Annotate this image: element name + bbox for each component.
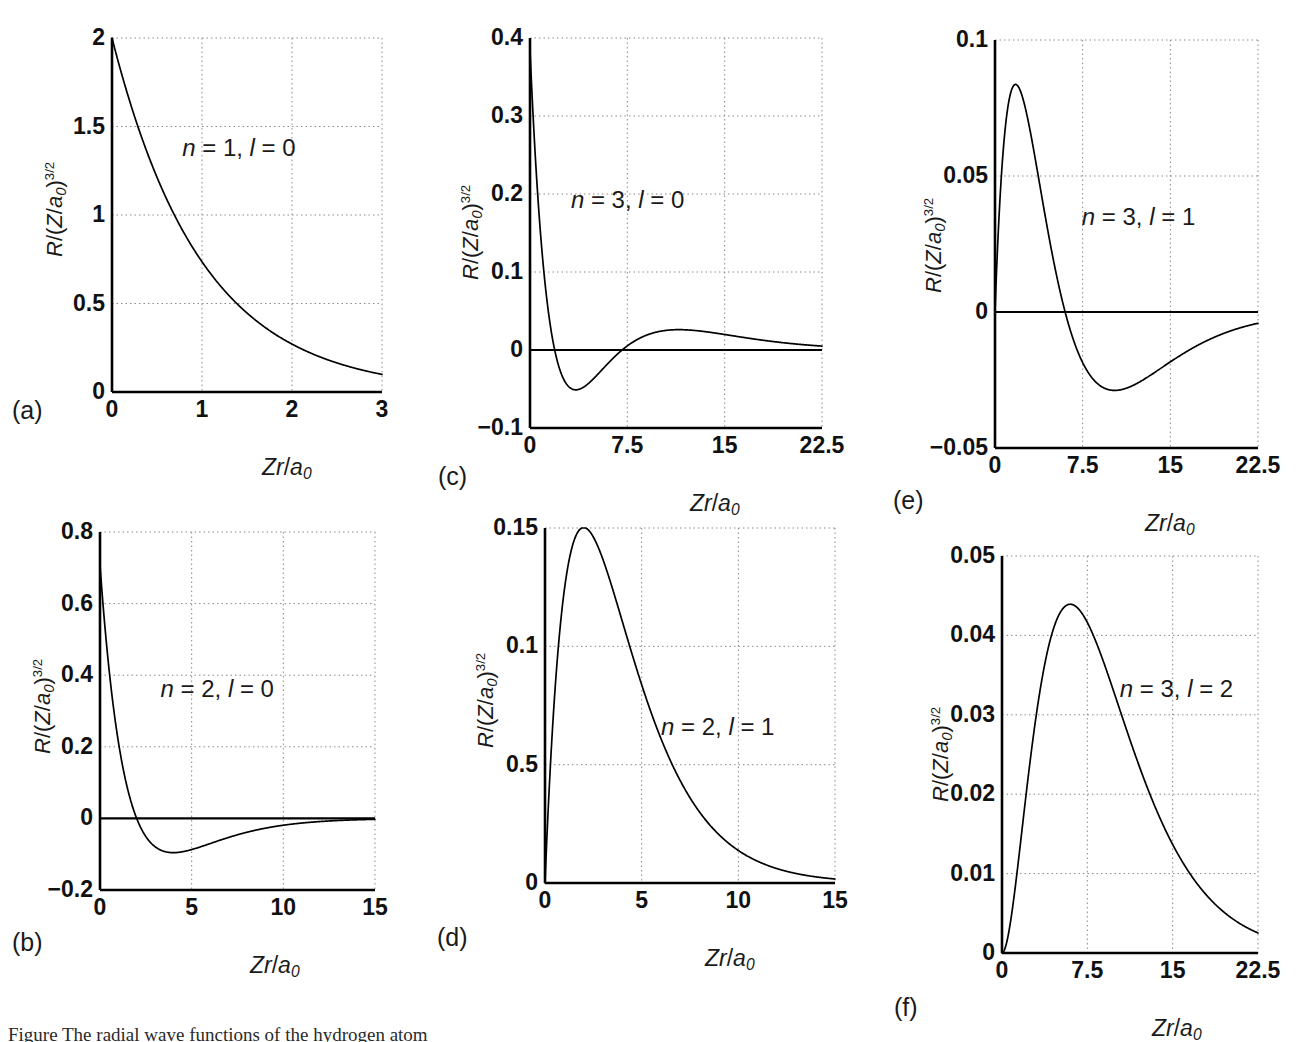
x-tick-label: 10 — [243, 896, 323, 919]
y-tick-label: 2 — [92, 26, 105, 49]
y-tick-label: 0.4 — [491, 26, 523, 49]
x-tick-label: 22.5 — [782, 434, 862, 457]
curve-annotation-f: n = 3, l = 2 — [1120, 675, 1233, 703]
curve-annotation-e: n = 3, l = 1 — [1082, 203, 1195, 231]
panel-label-d: (d) — [437, 923, 468, 952]
y-tick-label: 0 — [80, 806, 93, 829]
gridlines-e — [995, 40, 1258, 448]
x-tick-label: 0 — [72, 398, 152, 421]
y-tick-label: 0.1 — [506, 634, 538, 657]
y-tick-label: 0.5 — [506, 753, 538, 776]
y-tick-label: 0 — [510, 338, 523, 361]
y-tick-label: 0.02 — [950, 782, 995, 805]
x-tick-label: 0 — [60, 896, 140, 919]
y-tick-label: 0 — [975, 300, 988, 323]
x-tick-label: 15 — [1133, 959, 1213, 982]
y-tick-label: 0.5 — [73, 292, 105, 315]
figure-caption: Figure The radial wave functions of the … — [8, 1024, 1298, 1042]
x-tick-label: 22.5 — [1218, 454, 1298, 477]
y-tick-label: 0.03 — [950, 703, 995, 726]
panel-label-e: (e) — [893, 486, 924, 515]
panel-b: −0.200.20.40.60.8051015R/(Z/a0)3/2Zr/a0n… — [0, 500, 430, 970]
x-tick-label: 15 — [795, 889, 875, 912]
y-tick-label: 1.5 — [73, 115, 105, 138]
y-tick-label: 0.05 — [943, 164, 988, 187]
y-tick-label: 0.04 — [950, 623, 995, 646]
x-tick-label: 15 — [1130, 454, 1210, 477]
panel-c: −0.100.10.20.30.407.51522.5R/(Z/a0)3/2Zr… — [430, 6, 860, 496]
x-axis-label: Zr/a0 — [250, 952, 300, 981]
y-tick-label: 0.3 — [491, 104, 523, 127]
curve-e — [995, 84, 1258, 390]
y-axis-label: R/(Z/a0)3/2 — [458, 185, 485, 280]
y-tick-label: 0.2 — [491, 182, 523, 205]
x-axis-label: Zr/a0 — [262, 454, 312, 483]
x-tick-label: 15 — [685, 434, 765, 457]
curve-d — [545, 528, 835, 883]
curve-a — [112, 38, 382, 374]
panel-label-a: (a) — [12, 396, 43, 425]
y-tick-label: 0.15 — [493, 516, 538, 539]
x-tick-label: 1 — [162, 398, 242, 421]
panel-d: 00.50.10.15051015R/(Z/a0)3/2Zr/a0n = 2, … — [430, 505, 860, 970]
gridlines-f — [1002, 556, 1258, 953]
curve-c — [530, 50, 822, 390]
gridlines-c — [530, 38, 822, 428]
x-tick-label: 22.5 — [1218, 959, 1298, 982]
x-tick-label: 15 — [335, 896, 415, 919]
y-tick-label: 0.6 — [61, 592, 93, 615]
panel-e: −0.0500.050.107.51522.5R/(Z/a0)3/2Zr/a0n… — [875, 6, 1311, 496]
x-tick-label: 7.5 — [1043, 454, 1123, 477]
x-tick-label: 5 — [602, 889, 682, 912]
curve-f — [1002, 604, 1258, 953]
y-axis-label: R/(Z/a0)3/2 — [30, 659, 57, 754]
y-tick-label: 1 — [92, 203, 105, 226]
y-axis-label: R/(Z/a0)3/2 — [928, 707, 955, 802]
x-axis-label: Zr/a0 — [705, 945, 755, 974]
y-tick-label: 0.01 — [950, 862, 995, 885]
panel-label-f: (f) — [894, 993, 918, 1022]
x-tick-label: 2 — [252, 398, 332, 421]
y-tick-label: 0.05 — [950, 544, 995, 567]
y-axis-label: R/(Z/a0)3/2 — [473, 653, 500, 748]
x-tick-label: 0 — [490, 434, 570, 457]
y-tick-label: 0.1 — [956, 28, 988, 51]
panel-a: 00.511.520123R/(Z/a0)3/2Zr/a0n = 1, l = … — [0, 6, 430, 476]
x-tick-label: 0 — [955, 454, 1035, 477]
y-axis-label: R/(Z/a0)3/2 — [921, 198, 948, 293]
y-tick-label: 0.1 — [491, 260, 523, 283]
panel-label-b: (b) — [12, 928, 43, 957]
x-tick-label: 7.5 — [587, 434, 667, 457]
x-tick-label: 0 — [505, 889, 585, 912]
gridlines-a — [112, 38, 382, 392]
curve-annotation-d: n = 2, l = 1 — [661, 713, 774, 741]
panel-label-c: (c) — [438, 462, 467, 491]
x-tick-label: 7.5 — [1047, 959, 1127, 982]
y-tick-label: 0.8 — [61, 520, 93, 543]
curve-annotation-b: n = 2, l = 0 — [161, 675, 274, 703]
curve-b — [100, 565, 375, 852]
curve-annotation-a: n = 1, l = 0 — [182, 134, 295, 162]
gridlines-b — [100, 532, 375, 890]
x-tick-label: 0 — [962, 959, 1042, 982]
curve-annotation-c: n = 3, l = 0 — [571, 186, 684, 214]
panel-f: 00.010.020.030.040.0507.51522.5R/(Z/a0)3… — [875, 520, 1311, 1000]
x-tick-label: 5 — [152, 896, 232, 919]
x-tick-label: 10 — [698, 889, 778, 912]
x-tick-label: 3 — [342, 398, 422, 421]
y-axis-label: R/(Z/a0)3/2 — [42, 162, 69, 257]
y-tick-label: 0.2 — [61, 735, 93, 758]
y-tick-label: 0.4 — [61, 663, 93, 686]
gridlines-d — [545, 528, 835, 883]
